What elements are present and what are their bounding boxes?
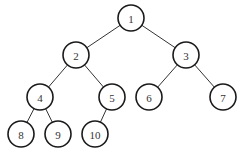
node-label: 5 [109, 92, 115, 104]
node-label: 1 [128, 13, 134, 25]
tree-node-4: 4 [27, 84, 53, 110]
tree-node-2: 2 [63, 42, 89, 68]
node-label: 4 [37, 92, 43, 104]
tree-node-3: 3 [173, 42, 199, 68]
node-label: 2 [73, 50, 79, 62]
tree-node-7: 7 [210, 84, 236, 110]
node-label: 7 [220, 92, 226, 104]
node-label: 3 [183, 50, 189, 62]
node-label: 10 [90, 129, 102, 141]
node-label: 9 [55, 129, 61, 141]
tree-node-9: 9 [45, 121, 71, 147]
edges [21, 18, 223, 134]
nodes: 12345678910 [8, 5, 236, 147]
binary-tree-diagram: 12345678910 [0, 0, 243, 158]
node-label: 8 [18, 129, 24, 141]
tree-node-1: 1 [118, 5, 144, 31]
node-label: 6 [146, 92, 152, 104]
tree-node-5: 5 [99, 84, 125, 110]
tree-node-8: 8 [8, 121, 34, 147]
tree-node-10: 10 [82, 121, 108, 147]
tree-node-6: 6 [136, 84, 162, 110]
